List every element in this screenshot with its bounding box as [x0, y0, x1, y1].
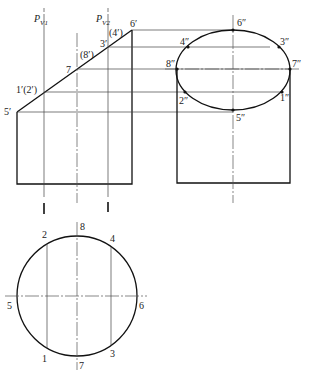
label-1p2p: 1′(2′)	[16, 84, 37, 96]
label-pv1: PV1	[33, 13, 48, 27]
front-view: PV1 PV2 5′ 1′(2′) 7 (8′) 3′ (4′) 6′	[4, 8, 137, 214]
side-view-outline	[177, 69, 290, 183]
front-view-outline	[17, 30, 132, 184]
label-t6: 6	[139, 300, 144, 311]
label-t8: 8	[80, 221, 85, 232]
top-view: 8 2 4 5 6 1 3 7	[5, 221, 147, 371]
point-6pp	[231, 28, 234, 31]
label-6pp: 6″	[237, 17, 246, 28]
point-2pp	[183, 90, 186, 93]
label-8p: (8′)	[80, 49, 94, 61]
projection-lines	[17, 30, 290, 112]
cut-line-inclined	[17, 30, 132, 112]
label-3p: 3′	[100, 38, 107, 49]
label-5p: 5′	[4, 106, 11, 117]
label-1pp: 1″	[280, 92, 289, 103]
label-4pp: 4″	[180, 36, 189, 47]
label-7pp: 7″	[292, 58, 301, 69]
label-t1: 1	[42, 353, 47, 364]
label-t3: 3	[110, 348, 115, 359]
label-t4: 4	[110, 233, 115, 244]
label-3pp: 3″	[280, 36, 289, 47]
point-5pp	[231, 108, 234, 111]
label-5pp: 5″	[236, 112, 245, 123]
label-2pp: 2″	[179, 95, 188, 106]
label-4p: (4′)	[109, 27, 123, 39]
label-t5: 5	[7, 300, 12, 311]
label-t2: 2	[42, 229, 47, 240]
label-7p: 7	[66, 64, 71, 75]
side-view: 6″ 4″ 3″ 8″ 7″ 2″ 1″ 5″	[165, 15, 301, 203]
label-6p: 6′	[130, 18, 137, 29]
projection-drawing: PV1 PV2 5′ 1′(2′) 7 (8′) 3′ (4′) 6′	[0, 0, 311, 379]
label-8pp: 8″	[166, 58, 175, 69]
point-8pp	[175, 67, 178, 70]
label-t7: 7	[79, 360, 84, 371]
